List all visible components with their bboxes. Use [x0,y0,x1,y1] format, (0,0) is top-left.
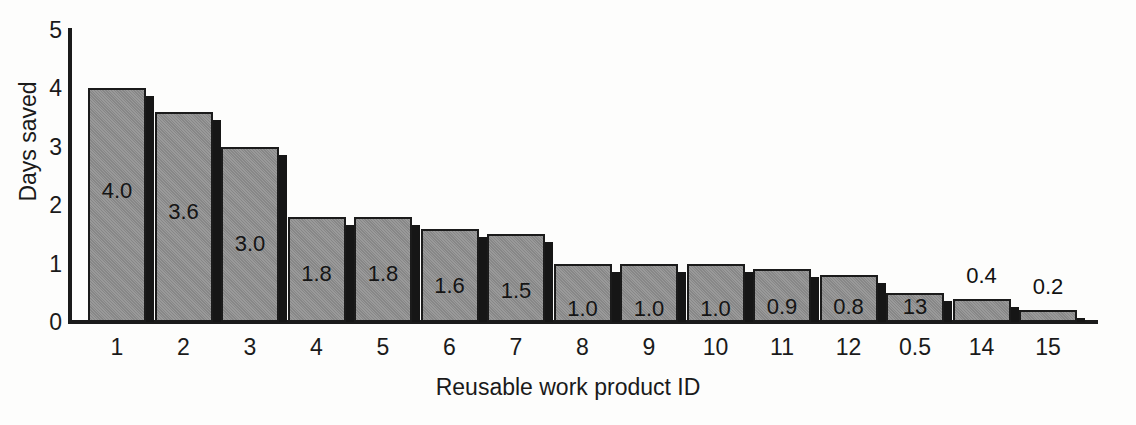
bar-value-label: 0.8 [833,296,864,318]
bar [1019,310,1085,322]
x-axis-tick-label: 11 [770,336,794,359]
x-axis-tick-label: 14 [969,336,995,359]
x-axis-tick-label: 5 [377,336,390,359]
bar-chart-figure: 012345 Days saved 4.03.63.01.81.81.61.51… [0,0,1136,425]
bar-shadow [612,272,620,322]
bar-body [88,88,146,322]
bar-shadow [213,120,221,322]
bar-value-label: 1.5 [501,280,532,302]
x-axis-tick-label: 3 [244,336,257,359]
x-axis-tick-label: 15 [1035,336,1061,359]
bar-shadow [412,225,420,322]
bar-value-label: 3.6 [168,201,199,223]
bar-shadow [678,272,686,322]
bar-body [1019,310,1077,322]
bar-shadow [545,242,553,322]
x-axis-tick-label: 8 [576,336,589,359]
x-axis-title: Reusable work product ID [0,374,1136,401]
bar-shadow [1011,307,1019,322]
bar-value-label: 13 [903,296,927,318]
bar-shadow [878,283,886,322]
bar-body [953,299,1011,322]
bar-shadow [944,301,952,322]
bar-value-label: 1.0 [700,298,731,320]
bars-layer: 4.03.63.01.81.81.61.51.01.01.00.90.8130.… [0,0,1136,425]
x-axis-tick-label: 2 [177,336,190,359]
bar [88,88,154,322]
bar-value-label: 1.8 [368,263,399,285]
bar [953,299,1019,322]
x-axis-tick-label: 0.5 [899,336,931,359]
bar-value-label: 3.0 [235,233,266,255]
bar-shadow [1077,318,1085,322]
x-axis-tick-label: 10 [703,336,729,359]
bar-value-label: 1.6 [434,275,465,297]
bar-value-label: 0.2 [1033,276,1064,298]
bar-shadow [146,96,154,322]
bar-shadow [479,237,487,322]
bar-shadow [811,277,819,322]
bar-shadow [346,225,354,322]
x-axis-tick-label: 6 [443,336,456,359]
bar-value-label: 0.9 [767,296,798,318]
x-axis-tick-label: 9 [643,336,656,359]
bar-value-label: 4.0 [102,180,133,202]
bar-value-label: 1.8 [301,263,332,285]
x-axis-tick-label: 7 [510,336,523,359]
bar-value-label: 1.0 [634,298,665,320]
x-axis-tick-label: 4 [310,336,323,359]
x-axis-tick-label: 1 [111,336,124,359]
x-axis-tick-label: 12 [836,336,862,359]
bar-shadow [279,155,287,322]
bar-value-label: 1.0 [567,298,598,320]
bar-shadow [745,272,753,322]
bar-value-label: 0.4 [966,265,997,287]
